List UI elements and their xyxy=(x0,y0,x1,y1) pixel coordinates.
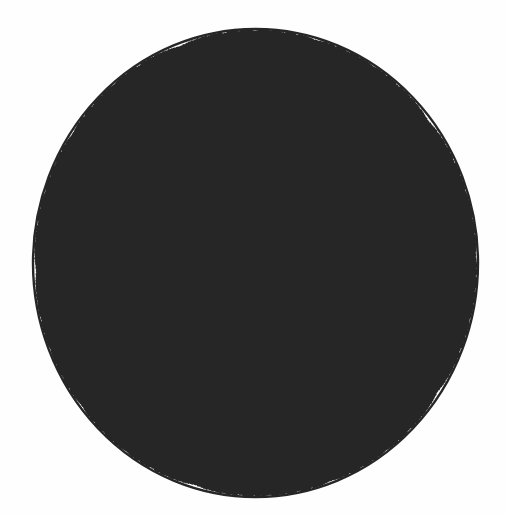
tessellation-edges xyxy=(35,30,476,495)
poincare-disk-group xyxy=(33,29,478,497)
figure-root xyxy=(0,0,507,514)
tiling-edges-layer xyxy=(35,30,476,495)
hyperbolic-tessellation-figure xyxy=(0,0,507,514)
